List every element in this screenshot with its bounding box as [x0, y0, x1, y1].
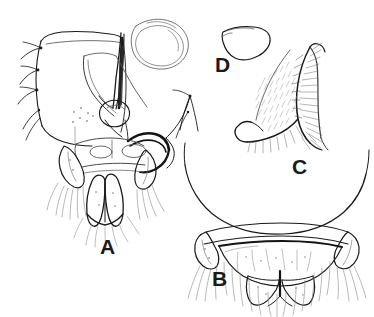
- panel-label-a: A: [100, 236, 115, 257]
- figure-plate: A B C D: [0, 0, 374, 317]
- panel-label-c: C: [292, 156, 307, 177]
- figure-drawing-canvas: [0, 0, 374, 317]
- panel-label-b: B: [212, 268, 227, 289]
- figure-background: [0, 0, 374, 317]
- panel-label-d: D: [215, 54, 230, 75]
